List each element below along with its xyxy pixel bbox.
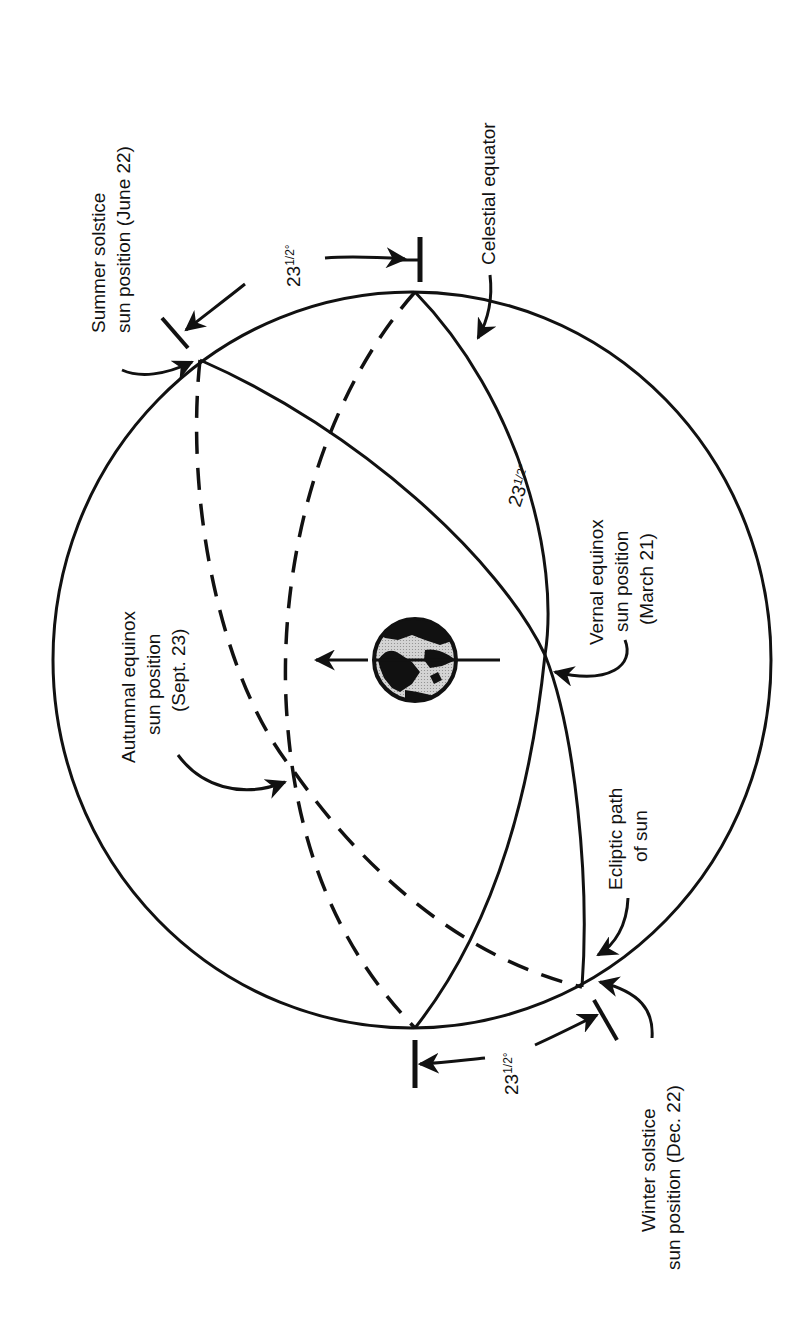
svg-text:Ecliptic path: Ecliptic path xyxy=(605,788,626,890)
svg-text:(March 21): (March 21) xyxy=(636,533,657,625)
tilt-bottom-angle-label: 231/2° xyxy=(501,1052,522,1095)
svg-text:sun position (June 22): sun position (June 22) xyxy=(113,146,134,333)
tilt-bottom-arrow-left xyxy=(420,1058,485,1064)
svg-text:sun position: sun position xyxy=(143,634,164,735)
svg-text:231/2°: 231/2° xyxy=(501,1052,522,1095)
ecliptic-label: Ecliptic path of sun xyxy=(605,788,651,890)
celestial-equator-pointer xyxy=(478,275,491,338)
tilt-top-arrow-left xyxy=(186,284,245,330)
svg-text:231/2°: 231/2° xyxy=(283,244,304,287)
summer-solstice-pointer xyxy=(122,362,192,374)
svg-text:sun position: sun position xyxy=(611,531,632,632)
svg-text:Summer solstice: Summer solstice xyxy=(88,193,109,333)
tilt-bottom-arrow-right xyxy=(535,1015,597,1045)
winter-solstice-label: Winter solstice sun position (Dec. 22) xyxy=(638,1085,684,1270)
autumnal-equinox-label: Autumnal equinox sun position (Sept. 23) xyxy=(118,610,189,763)
earth-icon xyxy=(316,619,500,710)
svg-text:Celestial equator: Celestial equator xyxy=(478,122,499,265)
tilt-top-arrow-right xyxy=(325,257,405,259)
svg-text:Autumnal equinox: Autumnal equinox xyxy=(118,610,139,763)
winter-solstice-tick xyxy=(594,1000,617,1040)
ecliptic-pointer xyxy=(598,898,628,955)
svg-text:of sun: of sun xyxy=(630,810,651,862)
svg-text:Winter solstice: Winter solstice xyxy=(638,1108,659,1232)
summer-solstice-label: Summer solstice sun position (June 22) xyxy=(88,146,134,333)
vernal-equinox-label: Vernal equinox sun position (March 21) xyxy=(586,519,657,645)
celestial-sphere-diagram: Summer solstice sun position (June 22) 2… xyxy=(0,0,811,1328)
celestial-equator-label: Celestial equator xyxy=(478,122,499,265)
winter-solstice-pointer xyxy=(600,982,652,1038)
tilt-top-angle-label: 231/2° xyxy=(283,244,304,287)
svg-text:sun position (Dec. 22): sun position (Dec. 22) xyxy=(663,1085,684,1270)
autumnal-equinox-pointer xyxy=(178,755,285,790)
summer-solstice-tick xyxy=(162,318,188,348)
svg-text:(Sept. 23): (Sept. 23) xyxy=(168,629,189,712)
svg-text:Vernal equinox: Vernal equinox xyxy=(586,519,607,645)
